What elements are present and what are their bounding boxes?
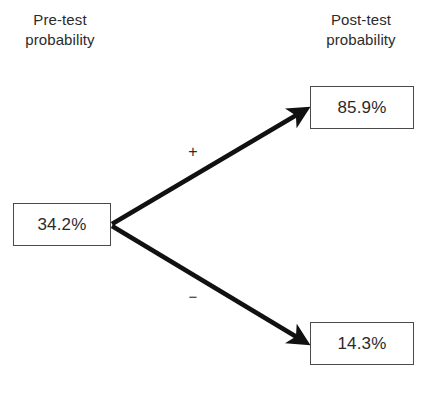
branch-label-positive: + <box>182 143 204 161</box>
post-test-negative-probability-box: 14.3% <box>310 322 414 365</box>
branch-label-negative: − <box>182 288 204 305</box>
post-test-positive-probability-box: 85.9% <box>310 86 414 129</box>
arrow-positive-branch <box>112 110 305 224</box>
post-test-negative-probability-value: 14.3% <box>337 334 386 354</box>
arrow-negative-branch <box>112 226 305 342</box>
cropped-caption-sliver <box>0 396 430 402</box>
pre-test-probability-box: 34.2% <box>13 203 111 246</box>
probability-tree-diagram: Pre-test probability Post-test probabili… <box>0 0 430 402</box>
pre-test-probability-value: 34.2% <box>37 215 86 235</box>
post-test-positive-probability-value: 85.9% <box>337 98 386 118</box>
